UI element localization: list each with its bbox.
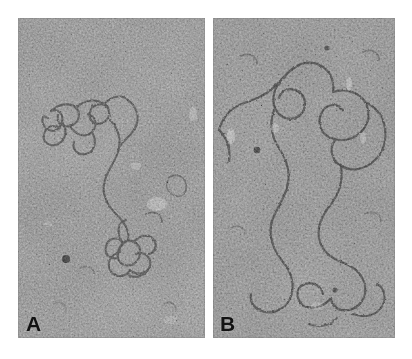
- panel-a: A: [18, 18, 205, 338]
- panel-b-grain-highlights: [213, 18, 395, 338]
- panel-a-grain-highlights: [18, 18, 205, 338]
- micrograph-figure: A: [0, 0, 412, 359]
- panel-b: B: [213, 18, 395, 338]
- panel-b-image: [213, 18, 395, 338]
- panel-a-image: [18, 18, 205, 338]
- panel-b-label: B: [220, 313, 235, 334]
- panel-a-label: A: [26, 313, 41, 334]
